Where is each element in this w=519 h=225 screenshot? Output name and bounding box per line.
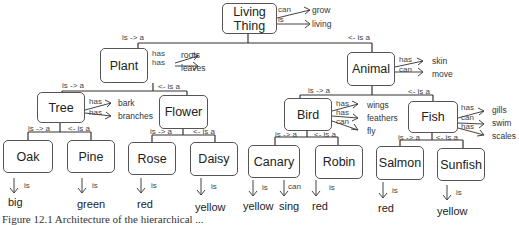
edge-label-is-a: <- is a [193,127,215,136]
node-label: Pine [78,150,103,164]
relation-label: is [329,183,335,192]
relation-label: is [24,181,30,190]
property-value: wings [367,100,389,110]
node-label: Robin [323,155,356,169]
edge-label-is-a: is -> a [275,130,297,139]
node-canary: Canary [248,145,300,178]
node-label: Animal [352,62,390,76]
property-value: gills [492,105,507,115]
relation-label: is [92,181,98,190]
edge-label-is-a: <- is a [436,133,458,142]
node-oak: Oak [3,140,53,173]
node-bird: Bird [284,98,332,131]
node-label: Sunfish [440,158,482,172]
node-label: Rose [137,152,166,166]
property-value: bark [118,98,135,108]
node-flower: Flower [159,95,208,129]
node-sunfish: Sunfish [437,148,485,181]
relation-label: is [456,188,462,197]
relation-label: has [336,108,349,117]
property-value: yellow [195,201,226,213]
node-label: Oak [17,150,40,164]
relation-label: has [89,108,102,117]
relation-label: can [288,182,301,191]
property-value: roots [181,50,200,60]
node-plant: Plant [100,48,148,83]
edge-label-is-a: is -> a [28,124,50,133]
property-value: big [8,196,23,208]
node-label: Plant [110,59,139,73]
relation-label: has [461,122,474,131]
property-value: grow [312,5,330,15]
node-daisy: Daisy [190,142,238,176]
edge-label-is-a: <- is a [68,124,90,133]
relation-label: is [392,186,398,195]
relation-label: can [336,117,349,126]
property-value: red [312,200,328,212]
node-label: Bird [297,108,319,122]
relation-label: can [461,113,474,122]
relation-label: can [278,5,291,14]
property-value: yellow [437,205,468,217]
node-rose: Rose [128,142,176,175]
edge-label-is-a: is -> a [398,133,420,142]
node-animal: Animal [347,52,395,86]
property-value: fly [367,126,376,136]
semantic-network-diagram: Living Thing Plant Animal Tree Flower Bi… [0,0,519,225]
relation-label: can [399,65,412,74]
node-living-thing: Living Thing [222,3,277,34]
property-value: sing [279,200,299,212]
node-salmon: Salmon [376,146,424,180]
property-value: scales [492,131,516,141]
property-value: swim [492,118,511,128]
node-label: Daisy [198,152,229,166]
node-label: Fish [421,110,445,124]
relation-label: is [262,183,268,192]
relation-label: has [461,103,474,112]
relation-label: is [211,182,217,191]
relation-label: has [89,97,102,106]
node-tree: Tree [37,92,85,123]
property-value: living [312,19,331,29]
property-value: move [432,69,453,79]
edge-label-is-a: is -> a [308,86,330,95]
edge-label-is-a: is -> a [150,127,172,136]
node-fish: Fish [408,101,458,133]
node-label: Salmon [379,156,421,170]
node-label: Tree [48,101,73,115]
property-value: yellow [243,200,274,212]
property-value: leaves [181,63,206,73]
figure-caption: Figure 12.1 Architecture of the hierarch… [2,213,204,225]
edge-label-is-a: <- is a [348,33,370,42]
relation-label: is [278,15,284,24]
node-robin: Robin [315,145,363,179]
node-label: Thing [234,19,265,33]
edge-label-is-a: <- is a [314,130,336,139]
property-value: green [77,198,105,210]
relation-label: has [399,55,412,64]
relation-label: has [152,58,165,67]
property-value: red [137,198,153,210]
node-label: Living [233,5,266,19]
property-value: red [378,202,394,214]
edge-label-is-a: is -> a [62,81,84,90]
relation-label: has [152,49,165,58]
property-value: feathers [367,113,398,123]
edge-label-is-a: is -> a [122,33,144,42]
relation-label: is [151,181,157,190]
node-pine: Pine [67,140,115,173]
edge-label-is-a: <- is a [158,82,180,91]
property-value: skin [432,56,447,66]
property-value: branches [118,111,153,121]
edge-label-is-a: <- is a [408,87,430,96]
relation-label: has [336,99,349,108]
node-label: Flower [165,105,203,119]
node-label: Canary [254,155,294,169]
